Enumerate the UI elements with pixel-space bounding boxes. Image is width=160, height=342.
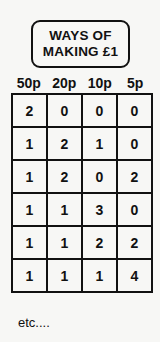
table-row: 2 0 0 0: [12, 94, 152, 127]
table-row: 1 1 2 2: [12, 226, 152, 259]
cell: 0: [47, 94, 82, 127]
cell: 3: [82, 193, 117, 226]
cell: 0: [82, 94, 117, 127]
cell: 2: [117, 226, 152, 259]
cell: 2: [47, 160, 82, 193]
header-5p: 5p: [118, 75, 154, 91]
cell: 0: [82, 160, 117, 193]
cell: 2: [12, 94, 47, 127]
cell: 2: [47, 127, 82, 160]
cell: 1: [12, 226, 47, 259]
cell: 1: [47, 259, 82, 292]
table-row: 1 2 1 0: [12, 127, 152, 160]
table-row: 1 1 3 0: [12, 193, 152, 226]
table-row: 1 2 0 2: [12, 160, 152, 193]
cell: 0: [117, 127, 152, 160]
cell: 1: [12, 127, 47, 160]
header-50p: 50p: [11, 75, 47, 91]
cell: 1: [47, 226, 82, 259]
cell: 1: [12, 160, 47, 193]
cell: 0: [117, 94, 152, 127]
header-10p: 10p: [82, 75, 118, 91]
coin-combinations-table: 2 0 0 0 1 2 1 0 1 2 0 2 1 1 3 0 1 1 2 2 …: [11, 93, 153, 293]
cell: 2: [117, 160, 152, 193]
etc-note: etc....: [18, 315, 50, 330]
cell: 1: [12, 193, 47, 226]
table-row: 1 1 1 4: [12, 259, 152, 292]
title-line-1: WAYS OF: [49, 28, 111, 44]
header-20p: 20p: [47, 75, 83, 91]
cell: 1: [12, 259, 47, 292]
cell: 2: [82, 226, 117, 259]
title-box: WAYS OF MAKING £1: [31, 20, 130, 68]
cell: 4: [117, 259, 152, 292]
cell: 1: [82, 127, 117, 160]
cell: 1: [82, 259, 117, 292]
cell: 0: [117, 193, 152, 226]
cell: 1: [47, 193, 82, 226]
column-headers: 50p 20p 10p 5p: [11, 75, 153, 91]
title-line-2: MAKING £1: [43, 44, 118, 60]
